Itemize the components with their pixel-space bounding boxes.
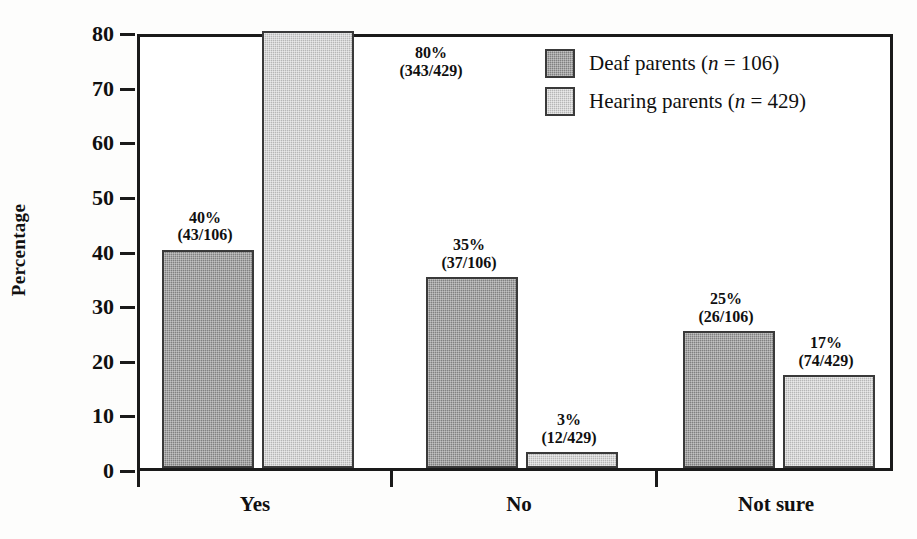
value-label-deaf-no: 35%(37/106) xyxy=(404,236,534,272)
value-label-percent: 80% xyxy=(361,44,501,62)
x-category-label-not-sure: Not sure xyxy=(686,492,866,517)
legend-label-hearing-text-after: = 429) xyxy=(745,89,806,113)
value-label-fraction: (26/106) xyxy=(661,308,791,326)
y-tick-label: 10 xyxy=(58,405,114,427)
value-label-fraction: (343/429) xyxy=(361,62,501,80)
legend-label-hearing-text-before: Hearing parents ( xyxy=(589,89,735,113)
value-label-percent: 17% xyxy=(761,334,891,352)
value-label-percent: 35% xyxy=(404,236,534,254)
bar-hearing-not-sure xyxy=(783,375,875,468)
value-label-hearing-not-sure: 17%(74/429) xyxy=(761,334,891,370)
value-label-deaf-yes: 40%(43/106) xyxy=(140,209,270,245)
y-tick-mark xyxy=(120,470,135,473)
bar-hearing-yes xyxy=(262,31,354,468)
y-tick-label: 0 xyxy=(58,460,114,482)
value-label-fraction: (43/106) xyxy=(140,226,270,244)
y-tick-label: 50 xyxy=(58,187,114,209)
y-tick-label: 80 xyxy=(58,23,114,45)
y-tick-label: 60 xyxy=(58,132,114,154)
y-tick-mark xyxy=(120,197,135,200)
legend-label-hearing-parents: Hearing parents (n = 429) xyxy=(589,89,806,114)
y-tick-label: 20 xyxy=(58,351,114,373)
chart-legend: Deaf parents (n = 106) Hearing parents (… xyxy=(545,44,885,120)
bar-chart: Percentage 01020304050607080 40%(43/106)… xyxy=(0,0,917,539)
legend-label-deaf-italic-n: n xyxy=(708,51,719,75)
x-category-label-no: No xyxy=(429,492,609,517)
y-tick-mark xyxy=(120,252,135,255)
bar-deaf-yes xyxy=(162,250,254,469)
x-tick-mark xyxy=(390,471,393,487)
bar-hearing-no xyxy=(526,452,618,468)
value-label-deaf-not-sure: 25%(26/106) xyxy=(661,290,791,326)
value-label-fraction: (12/429) xyxy=(504,429,634,447)
y-tick-mark xyxy=(120,142,135,145)
legend-label-hearing-italic-n: n xyxy=(735,89,746,113)
legend-label-deaf-text-before: Deaf parents ( xyxy=(589,51,708,75)
y-tick-mark xyxy=(120,361,135,364)
legend-label-deaf-text-after: = 106) xyxy=(718,51,779,75)
y-tick-mark xyxy=(120,306,135,309)
legend-item-hearing-parents: Hearing parents (n = 429) xyxy=(545,82,885,120)
x-tick-mark xyxy=(655,471,658,487)
y-axis-title: Percentage xyxy=(8,160,30,340)
legend-label-deaf-parents: Deaf parents (n = 106) xyxy=(589,51,779,76)
legend-swatch-deaf-parents xyxy=(545,49,575,78)
x-tick-mark xyxy=(137,471,140,487)
y-tick-label: 30 xyxy=(58,296,114,318)
value-label-percent: 40% xyxy=(140,209,270,227)
y-tick-mark xyxy=(120,33,135,36)
value-label-percent: 25% xyxy=(661,290,791,308)
value-label-hearing-yes: 80%(343/429) xyxy=(361,44,501,80)
y-tick-mark xyxy=(120,415,135,418)
value-label-percent: 3% xyxy=(504,411,634,429)
legend-swatch-hearing-parents xyxy=(545,87,575,116)
x-category-label-yes: Yes xyxy=(165,492,345,517)
y-tick-label: 70 xyxy=(58,78,114,100)
value-label-fraction: (74/429) xyxy=(761,352,891,370)
y-tick-mark xyxy=(120,88,135,91)
value-label-hearing-no: 3%(12/429) xyxy=(504,411,634,447)
legend-item-deaf-parents: Deaf parents (n = 106) xyxy=(545,44,885,82)
y-tick-label: 40 xyxy=(58,242,114,264)
value-label-fraction: (37/106) xyxy=(404,254,534,272)
